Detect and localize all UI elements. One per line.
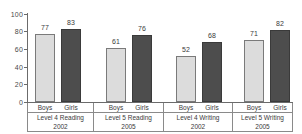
group-year-0: 2002 (28, 123, 93, 130)
bar-value-group3-boys: 71 (244, 30, 264, 37)
group-year-2: 2002 (164, 123, 232, 130)
y-axis-line (27, 13, 28, 103)
bar-group2-girls (202, 42, 222, 102)
bar-group0-boys (35, 34, 55, 102)
bar-group1-girls (132, 35, 152, 102)
bar-group2-boys (176, 56, 196, 102)
group-midline-0 (28, 112, 93, 113)
group-name-1: Level 5 Reading (94, 114, 163, 121)
bar-group3-boys (244, 40, 264, 102)
bar-value-group3-girls: 82 (270, 20, 290, 27)
y-tick-mark-100 (24, 14, 28, 15)
group-year-3: 2005 (233, 123, 292, 130)
bar-value-group2-girls: 68 (202, 32, 222, 39)
group-midline-2 (164, 112, 232, 113)
bar-chart: 0 20 40 60 80 100 77 83 61 76 52 68 (0, 0, 302, 134)
y-tick-label-0: 0 (19, 99, 23, 106)
bar-group3-girls (270, 30, 290, 102)
group-name-0: Level 4 Reading (28, 114, 93, 121)
y-tick-label-80: 80 (15, 28, 23, 35)
bar-value-group0-boys: 77 (35, 24, 55, 31)
y-tick-mark-20 (24, 84, 28, 85)
bar-group0-girls (61, 29, 81, 102)
plot-area: 0 20 40 60 80 100 77 83 61 76 52 68 (0, 0, 302, 134)
series-label-group0-girls: Girls (58, 104, 84, 111)
group-name-2: Level 4 Writing (164, 114, 232, 121)
series-label-group1-girls: Girls (129, 104, 155, 111)
bar-value-group2-boys: 52 (176, 46, 196, 53)
y-tick-label-60: 60 (15, 46, 23, 53)
series-label-group2-girls: Girls (199, 104, 225, 111)
bar-value-group1-girls: 76 (132, 25, 152, 32)
bar-value-group1-boys: 61 (106, 38, 126, 45)
series-label-group0-boys: Boys (32, 104, 58, 111)
y-tick-label-100: 100 (11, 11, 23, 18)
y-tick-label-40: 40 (15, 64, 23, 71)
series-label-group2-boys: Boys (173, 104, 199, 111)
group-midline-1 (94, 112, 163, 113)
y-tick-mark-80 (24, 31, 28, 32)
labels-bottom-line (27, 131, 293, 132)
bar-group1-boys (106, 48, 126, 102)
series-label-group3-girls: Girls (267, 104, 293, 111)
x-axis-line (27, 102, 293, 103)
group-midline-3 (233, 112, 292, 113)
group-name-3: Level 5 Writing (233, 114, 292, 121)
y-tick-mark-60 (24, 49, 28, 50)
series-label-group1-boys: Boys (103, 104, 129, 111)
bar-value-group0-girls: 83 (61, 19, 81, 26)
y-tick-mark-40 (24, 67, 28, 68)
y-tick-label-20: 20 (15, 81, 23, 88)
series-label-group3-boys: Boys (241, 104, 267, 111)
group-year-1: 2005 (94, 123, 163, 130)
